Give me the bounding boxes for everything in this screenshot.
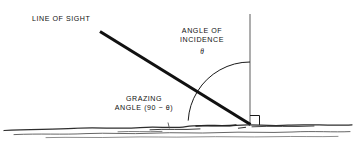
figure-canvas: LINE OF SIGHT ANGLE OF INCIDENCE θ GRAZI… <box>0 0 358 147</box>
right-angle-marker-icon <box>250 116 260 126</box>
ground-terrain <box>4 123 352 138</box>
label-angle-of-incidence: ANGLE OF INCIDENCE <box>160 27 244 45</box>
label-grazing-angle: GRAZING ANGLE (90 − θ) <box>96 95 192 113</box>
angle-of-incidence-arc <box>197 62 250 92</box>
label-theta-symbol: θ <box>160 47 244 56</box>
label-line-of-sight: LINE OF SIGHT <box>32 15 90 24</box>
